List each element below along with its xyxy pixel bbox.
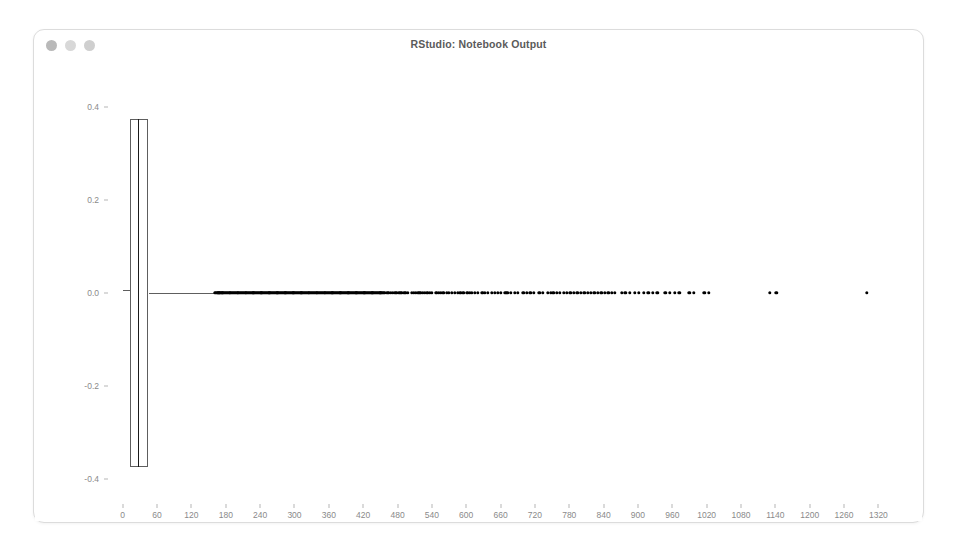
outlier-point <box>462 291 465 294</box>
boxplot-whisker-upper <box>149 293 215 294</box>
outlier-point <box>668 291 671 294</box>
outlier-point <box>651 291 654 294</box>
x-axis-tick-mark <box>157 504 158 508</box>
screen: RStudio: Notebook Output -0.4-0.20.00.20… <box>0 0 958 547</box>
x-axis-tick-label: 120 <box>184 510 198 520</box>
x-axis-tick-mark <box>260 504 261 508</box>
x-axis-tick-mark <box>741 504 742 508</box>
rstudio-notebook-output-window: RStudio: Notebook Output -0.4-0.20.00.20… <box>33 29 924 523</box>
x-axis-tick-mark <box>672 504 673 508</box>
outlier-point <box>516 291 519 294</box>
outlier-point <box>613 291 616 294</box>
outlier-point <box>707 291 710 294</box>
x-axis-tick-mark <box>878 504 879 508</box>
x-axis-tick-label: 360 <box>322 510 336 520</box>
y-axis-tick-mark <box>104 107 108 108</box>
y-axis-tick-label: 0.4 <box>87 102 99 112</box>
outlier-point <box>673 291 676 294</box>
outlier-point <box>688 291 691 294</box>
x-axis-tick-label: 1200 <box>800 510 819 520</box>
x-axis-tick-label: 240 <box>253 510 267 520</box>
x-axis-tick-mark <box>328 504 329 508</box>
outlier-point <box>532 291 535 294</box>
x-axis-tick-label: 840 <box>597 510 611 520</box>
y-axis-tick-mark <box>104 200 108 201</box>
outlier-point <box>664 291 667 294</box>
x-axis-tick-mark <box>397 504 398 508</box>
x-axis-tick-mark <box>500 504 501 508</box>
boxplot-whisker-lower-cap <box>123 290 130 298</box>
x-axis-tick-label: 60 <box>152 510 161 520</box>
x-axis-tick-label: 600 <box>459 510 473 520</box>
x-axis-tick-label: 0 <box>120 510 125 520</box>
outlier-point <box>677 291 680 294</box>
outlier-point <box>865 291 868 294</box>
x-axis-tick-mark <box>534 504 535 508</box>
y-axis-tick-label: -0.2 <box>84 381 99 391</box>
outlier-point <box>499 291 502 294</box>
outlier-point <box>692 291 695 294</box>
y-axis-tick-label: 0.0 <box>87 288 99 298</box>
outlier-point <box>628 291 631 294</box>
outlier-point <box>476 291 479 294</box>
y-axis-tick-mark <box>104 293 108 294</box>
outlier-point <box>768 291 771 294</box>
outlier-point <box>647 291 650 294</box>
x-axis-tick-mark <box>466 504 467 508</box>
y-axis-tick-label: 0.2 <box>87 195 99 205</box>
outlier-point <box>642 291 645 294</box>
x-axis-tick-mark <box>569 504 570 508</box>
y-axis-tick-label: -0.4 <box>84 474 99 484</box>
x-axis-tick-mark <box>603 504 604 508</box>
x-axis-tick-label: 1020 <box>697 510 716 520</box>
outlier-point <box>406 291 409 294</box>
x-axis-tick-mark <box>844 504 845 508</box>
outlier-point <box>509 291 512 294</box>
x-axis-tick-label: 1260 <box>835 510 854 520</box>
x-axis-tick-mark <box>431 504 432 508</box>
y-axis-tick-mark <box>104 478 108 479</box>
x-axis-tick-mark <box>637 504 638 508</box>
plot-panel: -0.4-0.20.00.20.406012018024030036042048… <box>109 84 899 502</box>
boxplot-median-line <box>138 119 140 467</box>
x-axis-tick-mark <box>809 504 810 508</box>
x-axis-tick-mark <box>191 504 192 508</box>
x-axis-tick-mark <box>225 504 226 508</box>
outlier-point <box>656 291 659 294</box>
x-axis-tick-label: 720 <box>528 510 542 520</box>
x-axis-tick-label: 540 <box>425 510 439 520</box>
outlier-point <box>637 291 640 294</box>
outlier-point <box>775 291 778 294</box>
x-axis-tick-label: 480 <box>390 510 404 520</box>
x-axis-tick-label: 180 <box>219 510 233 520</box>
y-axis-tick-mark <box>104 385 108 386</box>
outlier-point <box>624 291 627 294</box>
x-axis-tick-label: 1080 <box>732 510 751 520</box>
x-axis-tick-label: 780 <box>562 510 576 520</box>
x-axis-tick-label: 900 <box>631 510 645 520</box>
x-axis-tick-mark <box>363 504 364 508</box>
window-title: RStudio: Notebook Output <box>34 38 923 50</box>
outlier-point <box>486 291 489 294</box>
x-axis-tick-mark <box>775 504 776 508</box>
x-axis-tick-mark <box>294 504 295 508</box>
outlier-point <box>430 291 433 294</box>
outlier-point <box>541 291 544 294</box>
window-titlebar[interactable]: RStudio: Notebook Output <box>34 30 923 58</box>
x-axis-tick-label: 420 <box>356 510 370 520</box>
outlier-point <box>703 291 706 294</box>
x-axis-tick-label: 660 <box>493 510 507 520</box>
x-axis-tick-label: 960 <box>665 510 679 520</box>
plot-canvas: -0.4-0.20.00.20.406012018024030036042048… <box>35 58 922 521</box>
outlier-point <box>633 291 636 294</box>
x-axis-tick-label: 1140 <box>766 510 784 520</box>
x-axis-tick-mark <box>122 504 123 508</box>
x-axis-tick-label: 300 <box>287 510 301 520</box>
x-axis-tick-mark <box>706 504 707 508</box>
x-axis-tick-label: 1320 <box>869 510 888 520</box>
